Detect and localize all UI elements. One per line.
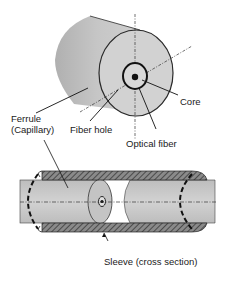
ferrule-diagram	[0, 0, 231, 281]
core-label: Core	[180, 96, 201, 107]
optical-fiber-label: Optical fiber	[126, 138, 177, 149]
sleeve-label: Sleeve (cross section)	[104, 256, 197, 267]
ferrule-label: Ferrule	[11, 113, 41, 124]
sleeve-bottom	[42, 223, 207, 232]
core	[132, 74, 138, 80]
sleeve-assembly	[20, 140, 216, 241]
ferrule-3d	[36, 14, 192, 140]
ferrule-sublabel: (Capillary)	[11, 124, 54, 135]
fiber-hole-label: Fiber hole	[70, 124, 112, 135]
sleeve-top	[42, 171, 207, 180]
